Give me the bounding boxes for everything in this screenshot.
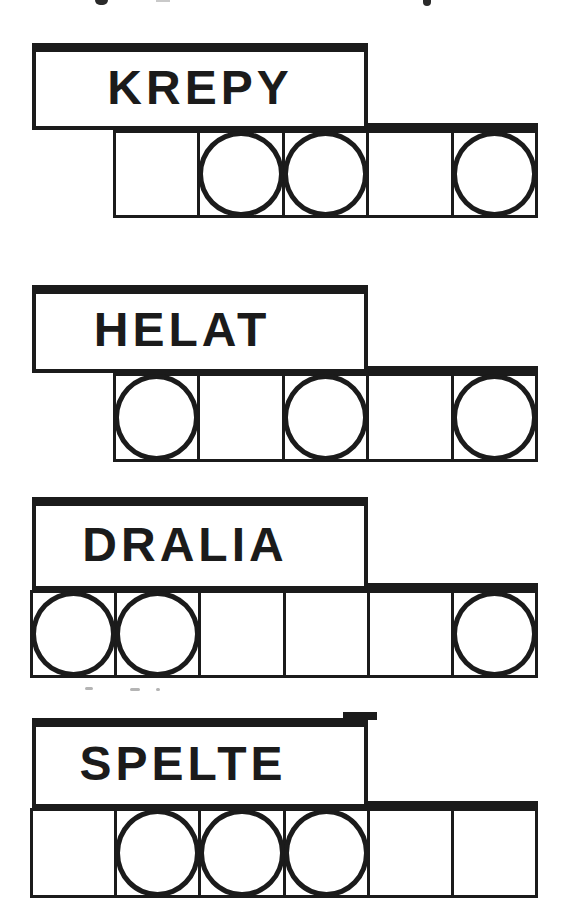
word-label: SPELTE [79,736,286,791]
sound-circle [284,809,369,897]
scan-ink-smudge [343,712,377,720]
scan-speck [156,688,160,691]
sound-cell-empty [33,811,117,895]
sound-cell-empty [454,811,535,895]
sound-circle [115,809,200,897]
group-spelte: SPELTE [0,0,573,918]
sound-cell-filled [117,811,201,895]
sound-cell-filled [201,811,285,895]
scan-speck [130,688,140,691]
sound-cell-empty [370,811,454,895]
word-box: SPELTE [32,718,368,808]
sound-cell-row [30,808,538,898]
scan-speck [85,687,93,690]
figure-canvas: KREPY HELAT DRALIA SPELTE [0,0,573,918]
sound-circle [199,809,284,897]
sound-cell-filled [286,811,370,895]
